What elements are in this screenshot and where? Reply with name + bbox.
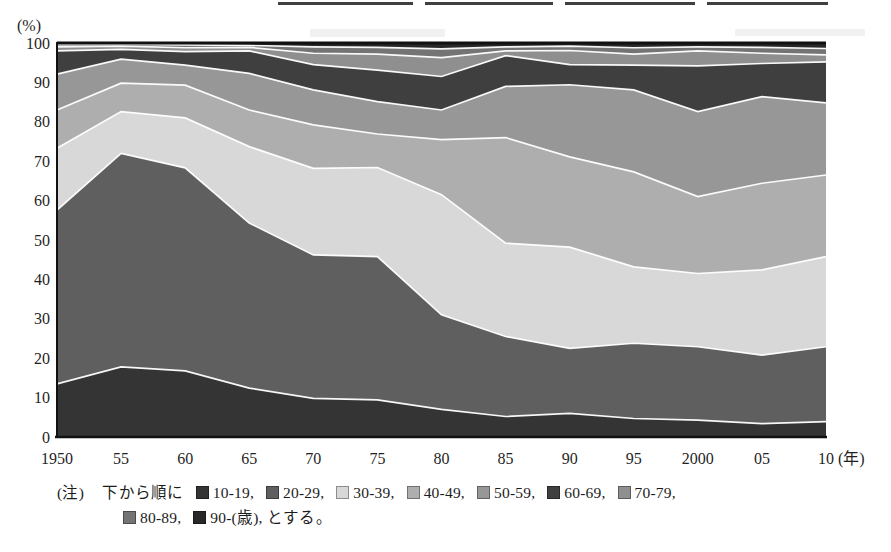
legend-item-80-89: 80-89, bbox=[115, 509, 185, 526]
legend-label-80-89: 80-89, bbox=[140, 509, 185, 526]
scan-smudge-left bbox=[310, 29, 445, 37]
legend-swatch-30-39 bbox=[336, 486, 349, 499]
x-tick-label-05: 05 bbox=[754, 450, 770, 467]
scan-smudge-right bbox=[735, 29, 865, 36]
footnote: (注)下から順に10-19, 20-29, 30-39, 40-49, 50-5… bbox=[57, 480, 867, 530]
cropped-title-remnant bbox=[278, 2, 413, 5]
cropped-title-remnant bbox=[707, 2, 828, 5]
age-distribution-stacked-area-chart: 1009080706050403020100(%)195055606570758… bbox=[0, 0, 891, 552]
legend-swatch-90- bbox=[193, 511, 206, 524]
x-tick-label-2000: 2000 bbox=[682, 450, 714, 467]
y-tick-label-30: 30 bbox=[34, 310, 50, 327]
legend-items-row-1: 10-19, 20-29, 30-39, 40-49, 50-59, 60-69… bbox=[188, 484, 676, 501]
legend-label-10-19: 10-19, bbox=[213, 484, 258, 501]
legend-item-50-59: 50-59, bbox=[469, 484, 539, 501]
legend-swatch-40-49 bbox=[407, 486, 420, 499]
x-tick-label-10: 10 bbox=[818, 450, 834, 467]
y-tick-label-90: 90 bbox=[34, 74, 50, 91]
legend-label-40-49: 40-49, bbox=[424, 484, 469, 501]
legend-swatch-10-19 bbox=[196, 486, 209, 499]
footnote-outro: とする。 bbox=[267, 509, 332, 526]
y-tick-label-50: 50 bbox=[34, 232, 50, 249]
legend-label-60-69: 60-69, bbox=[564, 484, 609, 501]
legend-label-90-: 90-(歳), bbox=[210, 509, 266, 526]
cropped-title-remnant bbox=[565, 2, 695, 5]
x-tick-label-90: 90 bbox=[562, 450, 578, 467]
y-tick-label-10: 10 bbox=[34, 389, 50, 406]
x-tick-label-85: 85 bbox=[498, 450, 514, 467]
x-tick-label-65: 65 bbox=[241, 450, 257, 467]
legend-label-30-39: 30-39, bbox=[353, 484, 398, 501]
y-tick-label-80: 80 bbox=[34, 113, 50, 130]
y-axis-unit-label: (%) bbox=[17, 17, 41, 35]
x-tick-label-75: 75 bbox=[369, 450, 385, 467]
cropped-title-remnant bbox=[425, 2, 553, 5]
y-tick-label-20: 20 bbox=[34, 350, 50, 367]
legend-item-30-39: 30-39, bbox=[328, 484, 398, 501]
legend-swatch-80-89 bbox=[123, 511, 136, 524]
legend-swatch-60-69 bbox=[547, 486, 560, 499]
x-tick-label-60: 60 bbox=[177, 450, 193, 467]
legend-item-90-: 90-(歳), bbox=[185, 509, 266, 526]
legend-items-row-2: 80-89, 90-(歳), bbox=[115, 509, 267, 526]
footnote-tag: (注) bbox=[57, 484, 84, 501]
legend-item-70-79: 70-79, bbox=[610, 484, 676, 501]
legend-swatch-50-59 bbox=[477, 486, 490, 499]
y-tick-label-60: 60 bbox=[34, 192, 50, 209]
y-tick-label-70: 70 bbox=[34, 153, 50, 170]
legend-label-20-29: 20-29, bbox=[283, 484, 328, 501]
legend-label-50-59: 50-59, bbox=[494, 484, 539, 501]
legend-swatch-70-79 bbox=[618, 486, 631, 499]
x-tick-label-80: 80 bbox=[434, 450, 450, 467]
footnote-line-2: 80-89, 90-(歳), とする。 bbox=[115, 505, 867, 530]
legend-swatch-20-29 bbox=[266, 486, 279, 499]
footnote-intro: 下から順に bbox=[102, 484, 184, 501]
legend-item-40-49: 40-49, bbox=[399, 484, 469, 501]
legend-item-20-29: 20-29, bbox=[258, 484, 328, 501]
y-tick-label-100: 100 bbox=[26, 35, 50, 52]
x-tick-label-1950: 1950 bbox=[41, 450, 73, 467]
y-tick-label-0: 0 bbox=[42, 429, 50, 446]
legend-label-70-79: 70-79, bbox=[635, 484, 676, 501]
y-tick-label-40: 40 bbox=[34, 271, 50, 288]
x-tick-label-70: 70 bbox=[305, 450, 321, 467]
x-axis-unit-label: (年) bbox=[838, 450, 865, 468]
x-tick-label-55: 55 bbox=[113, 450, 129, 467]
x-tick-label-95: 95 bbox=[626, 450, 642, 467]
legend-item-10-19: 10-19, bbox=[188, 484, 258, 501]
footnote-line-1: (注)下から順に10-19, 20-29, 30-39, 40-49, 50-5… bbox=[57, 480, 867, 505]
legend-item-60-69: 60-69, bbox=[539, 484, 609, 501]
scanned-area-chart-page: 1009080706050403020100(%)195055606570758… bbox=[0, 0, 891, 552]
